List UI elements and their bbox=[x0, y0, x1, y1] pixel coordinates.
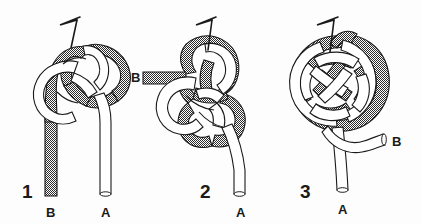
white-cord-step-two bbox=[156, 43, 245, 196]
label-b-step-three: B bbox=[392, 134, 401, 149]
step-number-two: 2 bbox=[200, 181, 211, 202]
knot-step-one: 1 B A bbox=[22, 17, 130, 220]
label-b-step-two: B bbox=[131, 70, 140, 85]
knot-diagram-svg: 1 B A bbox=[0, 0, 421, 224]
label-a-step-two: A bbox=[236, 205, 246, 220]
label-a-step-one: A bbox=[101, 205, 111, 220]
knot-step-two: 2 B A bbox=[131, 17, 246, 220]
knot-step-three: 3 A B bbox=[290, 17, 402, 217]
shaded-cord-tail-b bbox=[45, 118, 57, 196]
step-number-three: 3 bbox=[300, 181, 311, 202]
knot-diagram-figure: 1 B A bbox=[0, 0, 421, 224]
step-number-one: 1 bbox=[22, 181, 33, 202]
label-b-step-one: B bbox=[46, 205, 55, 220]
pin-icon-step-one bbox=[60, 17, 80, 48]
label-a-step-three: A bbox=[338, 202, 348, 217]
